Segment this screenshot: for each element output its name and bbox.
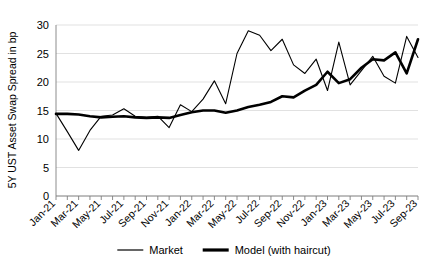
y-axis-title: 5Y UST Asset Swap Spread in bp <box>6 32 18 189</box>
y-axis-tick-label: 15 <box>37 105 49 117</box>
legend-label: Model (with haircut) <box>235 244 331 256</box>
legend-label: Market <box>149 244 183 256</box>
y-axis-tick-label: 20 <box>37 76 49 88</box>
series-line-market <box>56 31 418 151</box>
data-series <box>56 31 418 151</box>
asset-swap-spread-line-chart: 051015202530 Jan-21Mar-21May-21Jul-21Sep… <box>0 0 429 271</box>
x-axis-tick-labels: Jan-21Mar-21May-21Jul-21Sep-21Nov-21Jan-… <box>26 197 419 230</box>
chart-container: 051015202530 Jan-21Mar-21May-21Jul-21Sep… <box>0 0 429 271</box>
chart-legend: MarketModel (with haircut) <box>117 244 330 256</box>
y-axis-tick-label: 25 <box>37 48 49 60</box>
y-axis-tick-labels: 051015202530 <box>37 19 49 202</box>
y-axis-tick-label: 5 <box>43 162 49 174</box>
y-axis-tick-label: 10 <box>37 133 49 145</box>
y-axis-tick-label: 30 <box>37 19 49 31</box>
x-axis <box>56 25 418 200</box>
series-line-model-with-haircut <box>56 39 418 118</box>
